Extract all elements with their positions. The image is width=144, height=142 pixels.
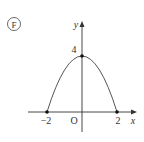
x-axis-label: x bbox=[130, 115, 136, 126]
parabola-figure: F y x 4 −2 2 O bbox=[0, 0, 144, 142]
point-x-2 bbox=[115, 110, 119, 114]
x-axis-arrow-icon bbox=[131, 110, 137, 115]
panel-label: F bbox=[8, 18, 21, 31]
y-axis-label: y bbox=[73, 19, 79, 30]
x-tick-2: 2 bbox=[116, 115, 121, 126]
x-tick-neg2: −2 bbox=[41, 115, 52, 126]
y-tick-4: 4 bbox=[72, 44, 77, 55]
point-vertex bbox=[80, 54, 84, 58]
panel-label-text: F bbox=[11, 20, 16, 30]
y-axis-arrow-icon bbox=[80, 21, 85, 27]
origin-label: O bbox=[70, 115, 77, 126]
chart-svg: F y x 4 −2 2 O bbox=[0, 0, 144, 142]
point-x-neg2 bbox=[45, 110, 49, 114]
